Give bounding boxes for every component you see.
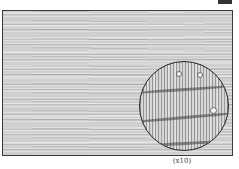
pore [197, 72, 203, 78]
pore [210, 107, 217, 114]
corner-mark [218, 0, 232, 4]
magnifier-inset [139, 61, 229, 151]
wood-grain-photo [2, 10, 233, 156]
growth-ring [139, 84, 229, 95]
pore [176, 71, 182, 77]
magnification-caption: (x10) [170, 157, 194, 165]
growth-ring [139, 139, 229, 148]
